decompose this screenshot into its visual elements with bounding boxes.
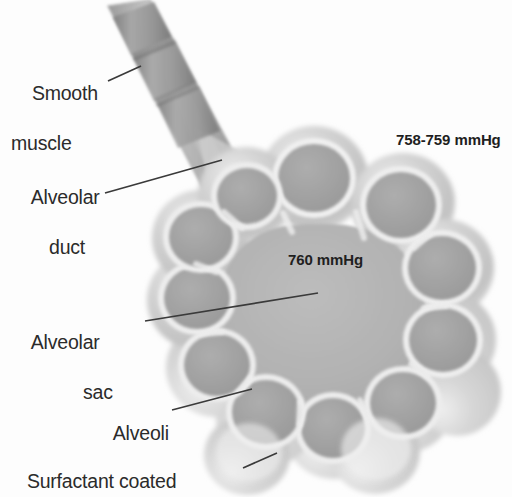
label-alveolar-duct: Alveolar duct [11,160,100,310]
label-smooth-muscle-line1: Smooth [32,82,98,104]
label-surfactant-coated: Surfactant coated [6,444,176,497]
alveolus [211,162,283,230]
diagram-canvas: Smooth muscle Alveolar duct Alveolar sac… [0,0,512,497]
leader-smooth-muscle [108,66,141,81]
label-smooth-muscle-line2: muscle [11,131,98,156]
alveolus [216,423,282,481]
alveolus [402,230,482,306]
label-alveoli-line1: Alveoli [113,422,169,444]
alveolus [341,418,411,480]
pressure-label-outer: 758-759 mmHg [396,131,501,148]
smooth-muscle-bands [113,2,220,148]
label-alveolar-sac-line1: Alveolar [31,331,100,353]
pressure-label-inner: 760 mmHg [288,251,363,268]
label-surfactant-coated-line1: Surfactant coated [27,470,176,492]
label-alveolar-duct-line1: Alveolar [31,186,100,208]
alveolus [272,138,356,218]
label-alveolar-duct-line2: duct [11,235,100,260]
